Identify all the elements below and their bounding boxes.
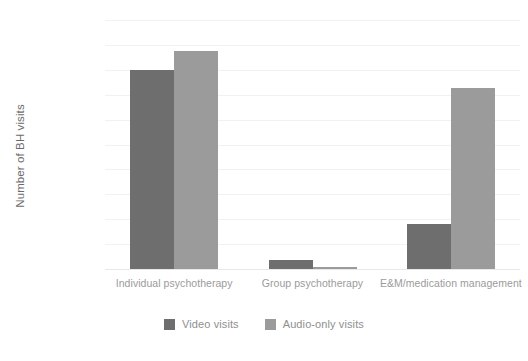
gridline xyxy=(105,45,520,46)
y-axis-title: Number of BH visits xyxy=(14,66,26,246)
bar-audio[interactable] xyxy=(313,267,357,269)
bar-chart: Number of BH visits 100,00090,00080,0007… xyxy=(0,0,528,361)
legend-label: Video visits xyxy=(182,318,239,330)
gridline xyxy=(105,20,520,21)
legend-label: Audio-only visits xyxy=(283,318,364,330)
bar-audio[interactable] xyxy=(451,88,495,269)
bar-audio[interactable] xyxy=(174,51,218,269)
legend-item[interactable]: Video visits xyxy=(164,318,239,330)
gridline xyxy=(105,269,520,270)
legend-swatch-icon xyxy=(164,319,175,330)
chart-legend: Video visitsAudio-only visits xyxy=(0,318,528,330)
bar-video[interactable] xyxy=(269,260,313,269)
bar-video[interactable] xyxy=(407,224,451,269)
plot-area: 100,00090,00080,00070,00060,00050,00040,… xyxy=(105,20,520,269)
legend-item[interactable]: Audio-only visits xyxy=(265,318,364,330)
legend-swatch-icon xyxy=(265,319,276,330)
x-category-label: E&M/medication management xyxy=(331,277,528,289)
bar-video[interactable] xyxy=(130,70,174,269)
